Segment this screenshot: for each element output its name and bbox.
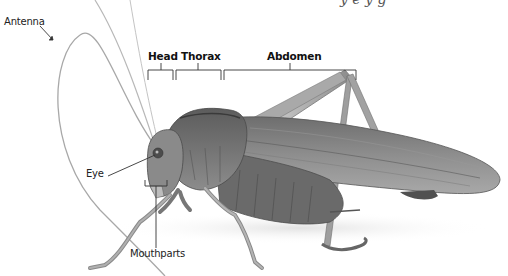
label-abdomen: Abdomen — [267, 50, 322, 62]
mouthparts-shape — [150, 186, 164, 198]
antenna-2 — [95, 0, 156, 148]
head-bracket — [148, 70, 173, 80]
hind-tibia-2 — [347, 74, 378, 132]
antenna-3 — [130, 0, 160, 150]
grasshopper-illustration — [0, 0, 508, 276]
label-mouthparts: Mouthparts — [130, 248, 185, 259]
label-antenna: Antenna — [4, 16, 45, 27]
thorax-bracket — [176, 70, 221, 80]
label-eye: Eye — [86, 168, 104, 179]
diagram-root: y e y g — [0, 0, 508, 276]
label-head: Head — [148, 50, 178, 62]
tail-tip — [400, 190, 438, 199]
label-thorax: Thorax — [181, 50, 221, 62]
